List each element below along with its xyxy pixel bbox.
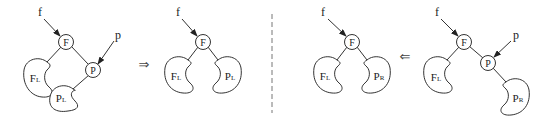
edge-P-PL <box>73 75 89 89</box>
pointer-f-arrow-icon <box>182 19 197 36</box>
edge-F-FL <box>188 47 198 60</box>
pointer-f-arrow-icon <box>441 19 458 36</box>
pointer-f-arrow-icon <box>328 19 346 36</box>
pointer-p-arrow-icon <box>494 41 511 57</box>
node-F-label: F <box>349 37 355 48</box>
node-F-label: F <box>200 37 206 48</box>
edge-F-PL <box>208 47 218 60</box>
panel-after-left: F f FL PL <box>165 5 242 93</box>
implies-arrow-icon: ⇒ <box>139 57 150 72</box>
pointer-f-label: f <box>321 5 325 19</box>
diagram-canvas: F P f p FL PL ⇒ F f FL PL F f FL <box>0 0 547 123</box>
pointer-f-label: f <box>176 5 180 19</box>
node-P-label: P <box>485 58 491 69</box>
pointer-f-arrow-icon <box>44 19 60 36</box>
edge-F-FL <box>337 47 347 60</box>
edge-F-P <box>469 46 483 58</box>
edge-P-PR <box>493 68 506 82</box>
panel-before-right: F P f p FL PR <box>424 5 530 115</box>
edge-F-FL <box>47 47 61 62</box>
implied-by-arrow-icon: ⇐ <box>400 49 411 64</box>
pointer-p-arrow-icon <box>98 41 114 64</box>
edge-F-PR <box>357 47 367 60</box>
node-P-label: P <box>90 65 96 76</box>
panel-before-left: F P f p FL PL <box>24 5 121 111</box>
edge-F-P <box>71 46 88 64</box>
node-F-label: F <box>63 37 69 48</box>
node-F-label: F <box>461 37 467 48</box>
pointer-p-label: p <box>513 28 519 42</box>
edge-F-FL <box>447 47 459 60</box>
panel-after-right: F f FL PR <box>314 5 391 93</box>
pointer-p-label: p <box>115 28 121 42</box>
pointer-f-label: f <box>38 5 42 19</box>
pointer-f-label: f <box>435 5 439 19</box>
